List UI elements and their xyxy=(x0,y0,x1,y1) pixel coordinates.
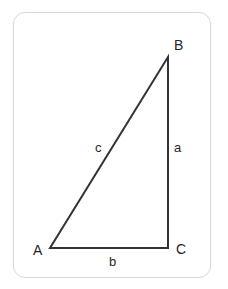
vertex-label-a: A xyxy=(33,243,42,257)
triangle-outline xyxy=(50,57,168,248)
side-label-hypotenuse-c: c xyxy=(95,141,102,154)
vertex-label-b: B xyxy=(174,38,183,52)
side-label-leg-a: a xyxy=(174,141,181,154)
vertex-label-c: C xyxy=(176,242,186,256)
figure-root: B A C c a b xyxy=(0,0,228,289)
side-label-leg-b: b xyxy=(109,255,116,268)
